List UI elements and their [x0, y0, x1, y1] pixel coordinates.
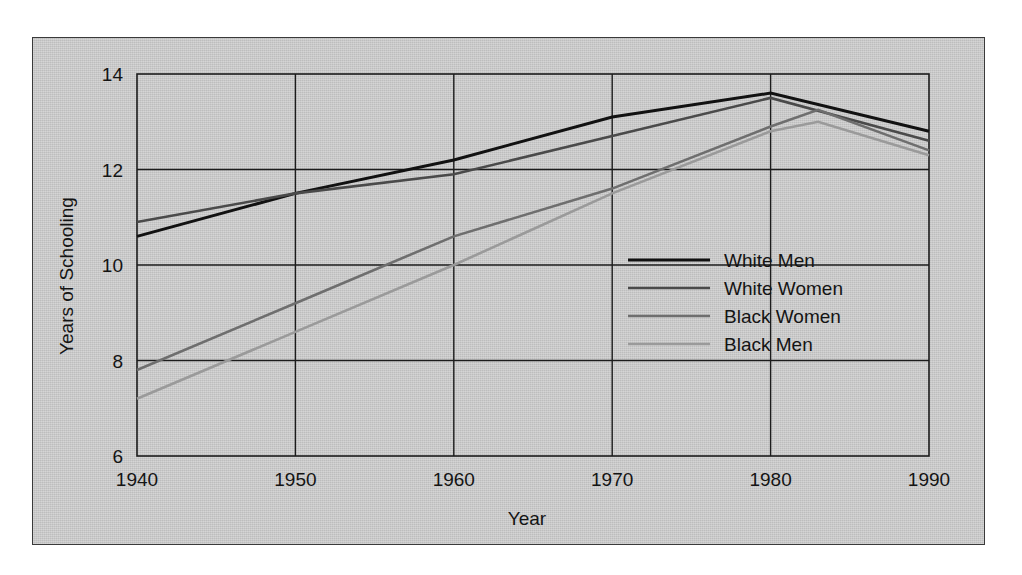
line-chart: 194019501960197019801990 68101214 Year Y…	[33, 38, 986, 546]
series-line-white-men	[137, 93, 929, 236]
x-tick-label: 1950	[274, 469, 316, 490]
x-tick-label: 1990	[908, 469, 950, 490]
y-tick-label: 8	[112, 351, 123, 372]
x-tick-label: 1970	[591, 469, 633, 490]
chart-panel: 194019501960197019801990 68101214 Year Y…	[32, 37, 985, 545]
series-line-black-women	[137, 110, 929, 370]
legend-label-white-men: White Men	[724, 250, 815, 271]
y-tick-label: 10	[102, 255, 123, 276]
y-tick-label: 12	[102, 160, 123, 181]
x-tick-label: 1980	[749, 469, 791, 490]
legend-label-black-men: Black Men	[724, 334, 813, 355]
y-axis-title: Years of Schooling	[56, 197, 77, 355]
x-tick-label: 1960	[433, 469, 475, 490]
y-tick-label: 14	[102, 64, 124, 85]
legend-label-black-women: Black Women	[724, 306, 841, 327]
chart-legend: White MenWhite WomenBlack WomenBlack Men	[628, 250, 843, 355]
y-tick-label: 6	[112, 446, 123, 467]
x-axis-tick-labels: 194019501960197019801990	[116, 469, 950, 490]
x-axis-title: Year	[508, 508, 547, 529]
figure-root: 194019501960197019801990 68101214 Year Y…	[0, 0, 1022, 575]
y-axis-tick-labels: 68101214	[102, 64, 124, 467]
legend-label-white-women: White Women	[724, 278, 843, 299]
x-tick-label: 1940	[116, 469, 158, 490]
